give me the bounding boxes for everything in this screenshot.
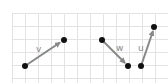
vector-v-head-point: [61, 37, 67, 43]
vector-v-arrow: [25, 43, 60, 67]
vector-diagram: v w u: [0, 0, 168, 83]
vector-u-label: u: [138, 43, 144, 53]
vector-u-head-point: [151, 24, 157, 30]
vector-u: u: [138, 24, 157, 69]
vector-v-tail-point: [22, 63, 28, 69]
vector-v-label: v: [36, 44, 42, 54]
vector-u-tail-point: [138, 63, 144, 69]
vector-w-label: w: [116, 43, 123, 53]
vector-w-head-point: [125, 63, 131, 69]
vector-w-tail-point: [99, 37, 105, 43]
